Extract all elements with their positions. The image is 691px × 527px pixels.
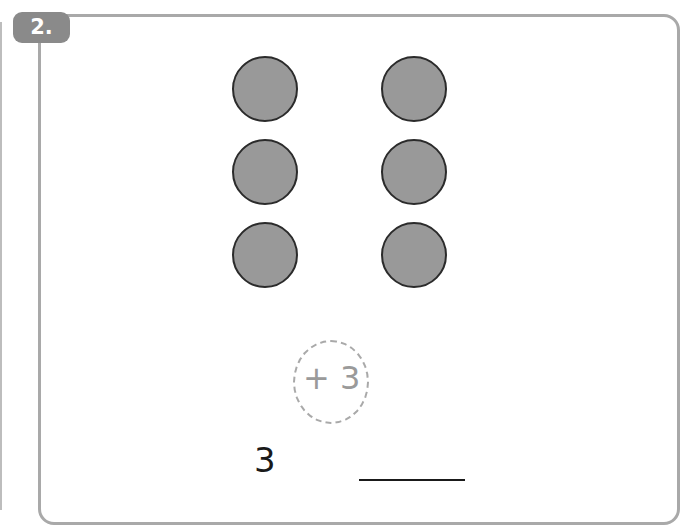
counter-dot <box>232 56 298 122</box>
margin-line <box>0 22 2 510</box>
problem-frame <box>38 14 680 525</box>
counter-dot <box>232 222 298 288</box>
start-number: 3 <box>254 440 276 480</box>
counter-dot <box>381 56 447 122</box>
counter-dot <box>232 139 298 205</box>
hint-operation: + 3 <box>303 358 383 398</box>
answer-blank[interactable] <box>359 479 465 481</box>
problem-number-badge: 2. <box>13 12 70 43</box>
counter-dot <box>381 222 447 288</box>
counter-dot <box>381 139 447 205</box>
